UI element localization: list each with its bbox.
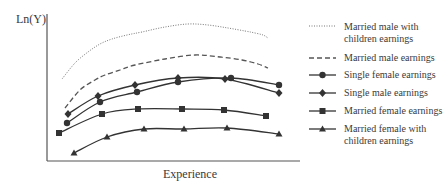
square-marker [221, 107, 227, 113]
legend-swatch-3 [309, 89, 336, 97]
series-line [74, 128, 279, 153]
series-3 [65, 74, 283, 118]
series-0 [62, 24, 268, 79]
diamond-marker [319, 89, 326, 97]
square-marker [56, 130, 62, 136]
circle-marker [64, 120, 70, 126]
diamond-marker [95, 92, 102, 100]
square-marker [99, 111, 105, 117]
legend [309, 26, 336, 132]
diamond-marker [65, 110, 72, 118]
series-2 [64, 75, 282, 126]
series-4 [56, 106, 269, 136]
diamond-marker [276, 89, 283, 97]
square-marker [320, 108, 326, 114]
diamond-marker [132, 81, 139, 89]
legend-label-married-male-children: Married male with children earnings [344, 21, 418, 45]
legend-label-single-female: Single female earnings [344, 69, 436, 81]
legend-label-single-male: Single male earnings [344, 87, 428, 99]
series-layer [56, 24, 283, 156]
circle-marker [97, 99, 103, 105]
legend-swatch-2 [309, 72, 336, 78]
square-marker [179, 106, 185, 112]
triangle-marker [71, 150, 78, 156]
legend-swatch-4 [309, 108, 336, 114]
legend-label-married-female: Married female earnings [344, 105, 442, 117]
square-marker [263, 113, 269, 119]
y-axis-label: Ln(Y) [16, 12, 46, 27]
legend-swatch-5 [309, 126, 336, 132]
square-marker [135, 106, 141, 112]
circle-marker [134, 89, 140, 95]
series-line [62, 24, 268, 79]
series-line [59, 109, 266, 133]
diamond-marker [222, 75, 229, 83]
circle-marker [319, 72, 325, 78]
legend-label-married-male: Married male earnings [344, 52, 435, 64]
series-5 [71, 125, 283, 156]
legend-label-married-female-children: Married female with children earnings [344, 123, 426, 147]
circle-marker [276, 82, 282, 88]
x-axis-label: Experience [163, 167, 217, 182]
